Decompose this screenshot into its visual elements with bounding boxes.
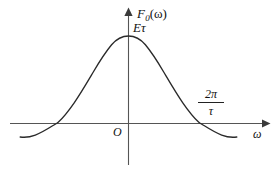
fraction-bar	[198, 102, 224, 103]
y-axis-label-base: F	[137, 6, 145, 21]
x-axis-label: ω	[253, 128, 261, 140]
origin-label: O	[113, 126, 122, 138]
x-axis-arrowhead-icon	[262, 119, 271, 127]
first-zero-denominator: τ	[196, 104, 226, 117]
first-zero-label: 2π τ	[196, 88, 226, 117]
y-axis-arrowhead-icon	[124, 8, 132, 17]
first-zero-numerator: 2π	[196, 88, 226, 101]
peak-value-label: Eτ	[133, 21, 146, 34]
figure-container: F0(ω) Eτ O ω 2π τ	[0, 0, 275, 170]
y-axis-label-argument: (ω)	[150, 6, 167, 21]
